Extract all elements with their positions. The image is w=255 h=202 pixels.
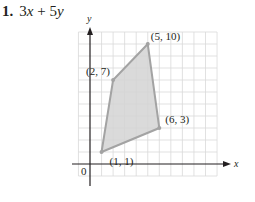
origin-label: 0 (81, 165, 87, 177)
vertex-point (146, 42, 150, 46)
y-axis-arrow-icon (87, 27, 93, 35)
vertex-label: (1, 1) (110, 155, 134, 168)
x-axis-label: x (233, 158, 239, 169)
vertex-point (157, 126, 161, 130)
feasible-region (102, 44, 160, 152)
vertex-label: (6, 3) (165, 113, 189, 126)
feasible-region-graph: x y 0 (1, 1)(6, 3)(5, 10)(2, 7) (0, 0, 255, 202)
vertex-label: (5, 10) (151, 30, 181, 43)
vertex-point (100, 150, 104, 154)
vertex-point (111, 78, 115, 82)
y-axis-label: y (86, 13, 92, 24)
vertex-label: (2, 7) (86, 65, 110, 78)
x-axis-arrow-icon (223, 161, 231, 167)
